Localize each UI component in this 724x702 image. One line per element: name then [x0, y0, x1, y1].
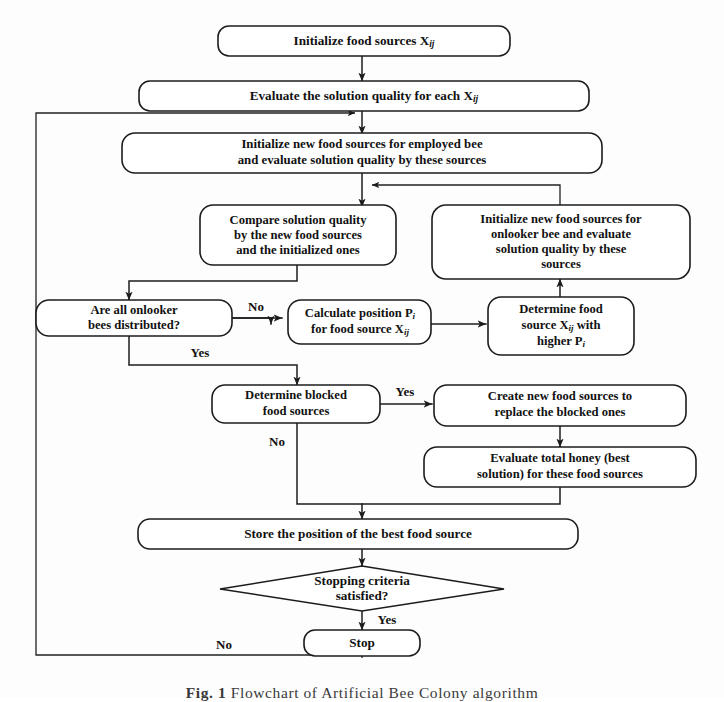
node-calculate-position-line1: Calculate position Pi [305, 306, 416, 321]
node-create-new-sources: Create new food sources to replace the b… [434, 385, 686, 426]
node-onlooker-bee-line1: Initialize new food sources for [480, 212, 642, 226]
node-evaluate-total-honey-line2: solution) for these food sources [477, 467, 643, 481]
node-stop-label: Stop [349, 635, 375, 650]
figure-caption-label: Fig. 1 [186, 684, 227, 701]
node-evaluate-solution-quality: Evaluate the solution quality for each X… [139, 81, 589, 111]
node-determine-blocked: Determine blocked food sources [212, 385, 380, 423]
node-stop: Stop [304, 630, 420, 656]
node-store-best-position: Store the position of the best food sour… [138, 519, 578, 549]
node-calculate-position: Calculate position Pi for food source Xi… [288, 300, 431, 344]
node-onlooker-bee-line2: onlooker bee and evaluate [491, 227, 631, 241]
node-onlooker-bee: Initialize new food sources for onlooker… [432, 205, 690, 279]
node-create-new-sources-line2: replace the blocked ones [495, 405, 626, 419]
edge-honey-to-trunk [362, 485, 560, 504]
node-compare-solution: Compare solution quality by the new food… [200, 205, 396, 265]
node-compare-solution-line2: by the new food sources [234, 228, 362, 242]
edge-label-blocked-no: No [269, 434, 285, 449]
node-initialize-food-sources-label: Initialize food sources Xij [294, 33, 435, 49]
node-compare-solution-line3: and the initialized ones [236, 243, 360, 257]
node-employed-bee-line2: and evaluate solution quality by these s… [238, 153, 487, 167]
edge-onlooker-no-to-calculate [232, 318, 271, 324]
node-stopping-criteria-line1: Stopping criteria [314, 573, 410, 588]
node-determine-food-source-line3: higher Pi [537, 334, 586, 349]
node-employed-bee-line1: Initialize new food sources for employed… [241, 137, 483, 151]
node-employed-bee: Initialize new food sources for employed… [122, 133, 602, 173]
node-create-new-sources-line1: Create new food sources to [488, 389, 632, 403]
node-evaluate-solution-quality-label: Evaluate the solution quality for each X… [250, 88, 479, 104]
node-stopping-criteria-line2: satisfied? [336, 588, 389, 603]
node-onlooker-bee-line3: solution quality by these [496, 242, 627, 256]
edge-onlooker-yes-to-blocked [129, 336, 297, 385]
edge-stop-no-feedback-loop [36, 113, 358, 655]
edge-label-stopping-yes: Yes [378, 612, 397, 627]
node-evaluate-total-honey-line1: Evaluate total honey (best [490, 451, 630, 465]
node-determine-blocked-line1: Determine blocked [245, 388, 347, 402]
edge-onlooker-return-to-trunk [372, 185, 560, 206]
figure-caption: Fig. 1 Flowchart of Artificial Bee Colon… [0, 684, 724, 702]
node-onlooker-bee-line4: sources [541, 257, 581, 271]
node-onlooker-distributed-line2: bees distributed? [88, 318, 180, 332]
node-onlooker-distributed-line1: Are all onlooker [90, 303, 178, 317]
node-onlooker-distributed: Are all onlooker bees distributed? [36, 300, 232, 336]
edge-blocked-no-to-store [297, 423, 362, 519]
node-store-best-position-label: Store the position of the best food sour… [244, 526, 472, 541]
node-evaluate-total-honey: Evaluate total honey (best solution) for… [424, 447, 696, 487]
figure-caption-text: Flowchart of Artificial Bee Colony algor… [231, 684, 539, 701]
edge-label-onlooker-no: No [248, 299, 264, 314]
node-compare-solution-line1: Compare solution quality [230, 213, 368, 227]
edge-label-stopping-no: No [216, 637, 232, 652]
node-determine-food-source-line2: source Xij with [522, 318, 601, 333]
edge-compare-to-onlooker-decision [129, 265, 297, 300]
node-determine-food-source-line1: Determine food [519, 302, 603, 316]
edge-label-onlooker-yes: Yes [191, 345, 210, 360]
edge-label-blocked-yes: Yes [396, 384, 415, 399]
node-stopping-criteria: Stopping criteria satisfied? [220, 566, 504, 611]
node-determine-blocked-line2: food sources [263, 404, 330, 418]
node-calculate-position-line2: for food source Xij [311, 322, 409, 337]
node-determine-food-source: Determine food source Xij with higher Pi [488, 297, 634, 355]
node-initialize-food-sources: Initialize food sources Xij [218, 26, 510, 56]
